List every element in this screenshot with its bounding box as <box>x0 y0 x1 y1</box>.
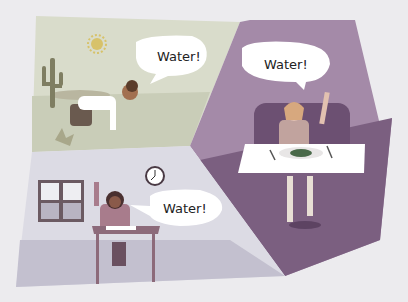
restaurant-speech-text: Water! <box>264 57 308 72</box>
classroom-speech-text: Water! <box>163 201 207 216</box>
illustration <box>0 0 408 302</box>
window <box>38 180 84 222</box>
clock-icon <box>146 167 164 185</box>
desert-speech-text: Water! <box>157 49 201 64</box>
